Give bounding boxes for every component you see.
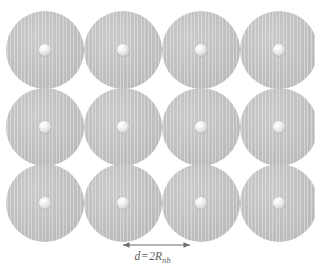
disk-grid (0, 0, 315, 271)
dimension-label-equals: = (140, 250, 149, 262)
nanoparticle-core (273, 197, 285, 209)
nanoparticle-lattice-figure: d=2Rnb (0, 0, 315, 271)
nanoparticle-core (273, 44, 285, 56)
dimension-label: d=2Rnb (0, 250, 315, 265)
nanoparticle-core (39, 44, 51, 56)
nanoparticle-core (39, 197, 51, 209)
dimension-label-value: 2R (149, 250, 162, 262)
nanoparticle-core (39, 121, 51, 133)
nanoparticle-core (273, 121, 285, 133)
nanoparticle-core (195, 44, 207, 56)
nanoparticle-core (195, 197, 207, 209)
nanoparticle-core (117, 197, 129, 209)
dimension-label-subscript: nb (162, 256, 170, 265)
nanoparticle-core (195, 121, 207, 133)
nanoparticle-core (117, 121, 129, 133)
nanoparticle-core (117, 44, 129, 56)
